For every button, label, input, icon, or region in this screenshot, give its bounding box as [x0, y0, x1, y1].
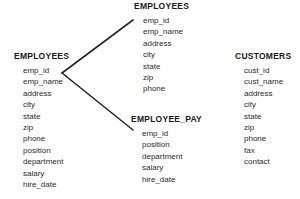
er-diagram-canvas: EMPLOYEES emp_id emp_name address city s…: [0, 0, 300, 199]
field-row[interactable]: hire_date: [23, 179, 69, 190]
field-row[interactable]: state: [143, 61, 189, 72]
field-row[interactable]: cust_id: [244, 65, 291, 76]
field-row[interactable]: city: [143, 49, 189, 60]
entity-employee-pay[interactable]: EMPLOYEE_PAY emp_id position department …: [131, 114, 202, 185]
field-row[interactable]: emp_name: [143, 26, 189, 37]
field-row[interactable]: position: [23, 145, 69, 156]
field-row[interactable]: hire_date: [142, 174, 202, 185]
relationship-line-employees-to-employee-pay: [62, 73, 133, 130]
field-row[interactable]: phone: [23, 133, 69, 144]
field-row[interactable]: address: [244, 88, 291, 99]
field-row[interactable]: phone: [244, 133, 291, 144]
entity-title: EMPLOYEES: [14, 51, 69, 62]
field-row[interactable]: fax: [244, 145, 291, 156]
field-row[interactable]: department: [23, 156, 69, 167]
field-list: emp_id position department salary hire_d…: [142, 128, 202, 185]
entity-title: EMPLOYEES: [134, 1, 189, 12]
field-list: emp_id emp_name address city state zip p…: [23, 65, 69, 190]
entity-customers[interactable]: CUSTOMERS cust_id cust_name address city…: [235, 51, 291, 168]
field-row[interactable]: contact: [244, 156, 291, 167]
field-row[interactable]: emp_id: [142, 128, 202, 139]
field-row[interactable]: position: [142, 139, 202, 150]
field-row[interactable]: state: [244, 111, 291, 122]
field-row[interactable]: address: [23, 88, 69, 99]
entity-title: CUSTOMERS: [235, 51, 291, 62]
field-row[interactable]: zip: [23, 122, 69, 133]
field-row[interactable]: salary: [142, 162, 202, 173]
field-row[interactable]: zip: [244, 122, 291, 133]
field-row[interactable]: zip: [143, 72, 189, 83]
relationship-line-employees-to-employees: [62, 20, 133, 73]
field-row[interactable]: emp_name: [23, 76, 69, 87]
field-row[interactable]: city: [244, 99, 291, 110]
field-row[interactable]: address: [143, 38, 189, 49]
field-row[interactable]: salary: [23, 168, 69, 179]
entity-employees-top[interactable]: EMPLOYEES emp_id emp_name address city s…: [134, 1, 189, 95]
field-row[interactable]: emp_id: [143, 15, 189, 26]
entity-title: EMPLOYEE_PAY: [131, 114, 202, 125]
field-list: emp_id emp_name address city state zip p…: [143, 15, 189, 95]
field-row[interactable]: department: [142, 151, 202, 162]
field-row[interactable]: cust_name: [244, 76, 291, 87]
field-list: cust_id cust_name address city state zip…: [244, 65, 291, 168]
entity-employees-left[interactable]: EMPLOYEES emp_id emp_name address city s…: [14, 51, 69, 190]
field-row[interactable]: phone: [143, 83, 189, 94]
field-row[interactable]: state: [23, 111, 69, 122]
field-row[interactable]: city: [23, 99, 69, 110]
field-row[interactable]: emp_id: [23, 65, 69, 76]
